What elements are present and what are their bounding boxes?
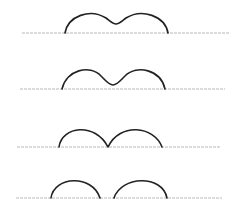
stage-1-panel bbox=[22, 14, 229, 33]
droplet-merge-diagram bbox=[0, 0, 240, 215]
diagram-canvas bbox=[0, 0, 240, 215]
stage-1-curve bbox=[65, 14, 168, 33]
stage-3-curve bbox=[59, 130, 162, 147]
stage-4-curve bbox=[51, 181, 167, 198]
stage-2-panel bbox=[20, 70, 225, 89]
stage-2-curve bbox=[62, 70, 165, 89]
stage-3-panel bbox=[17, 130, 221, 147]
stage-4-panel bbox=[16, 181, 222, 198]
